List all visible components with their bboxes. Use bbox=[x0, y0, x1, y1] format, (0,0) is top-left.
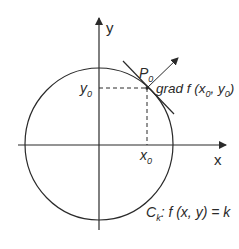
gradient-label: grad f (x0, y0) bbox=[156, 82, 234, 96]
p0-sub: 0 bbox=[148, 74, 153, 84]
curve-label: Ck: f (x, y) = k bbox=[146, 205, 230, 219]
gradient-label-sub1: 0 bbox=[206, 89, 211, 99]
y0-label: y0 bbox=[80, 81, 92, 95]
x0-sub: 0 bbox=[147, 156, 152, 166]
p0-main: P bbox=[139, 65, 148, 81]
curve-label-sub: k bbox=[156, 213, 161, 223]
y-axis-label: y bbox=[106, 20, 114, 35]
y0-sub: 0 bbox=[87, 89, 92, 99]
x0-label: x0 bbox=[140, 148, 152, 162]
level-curve-diagram: y x P0 y0 x0 grad f (x0, y0) Ck: f (x, y… bbox=[0, 0, 239, 249]
x-axis-label: x bbox=[214, 152, 222, 167]
y0-main: y bbox=[80, 80, 87, 96]
gradient-label-prefix: grad f (x bbox=[156, 81, 206, 96]
point-p0 bbox=[145, 86, 149, 90]
gradient-label-sub2: 0 bbox=[225, 89, 230, 99]
gradient-label-mid: , y bbox=[211, 81, 225, 96]
x-axis-label-text: x bbox=[214, 151, 222, 168]
x0-main: x bbox=[140, 147, 147, 163]
p0-label: P0 bbox=[139, 66, 153, 80]
curve-label-rest: : f (x, y) = k bbox=[161, 204, 231, 220]
curve-label-main: C bbox=[146, 204, 156, 220]
gradient-label-suffix: ) bbox=[230, 81, 235, 96]
y-axis-label-text: y bbox=[106, 19, 114, 36]
